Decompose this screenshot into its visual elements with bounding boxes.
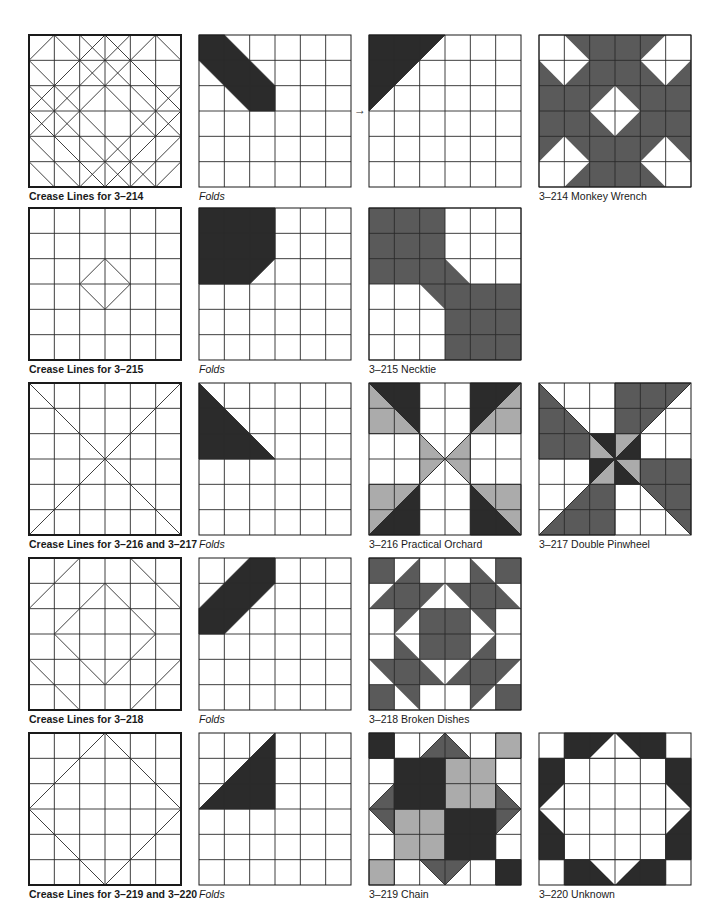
panel-chain xyxy=(368,732,522,886)
quilt-block-folds-215 xyxy=(198,207,352,361)
quilt-block-crease-215 xyxy=(28,207,182,361)
quilt-block-crease-214 xyxy=(28,34,182,188)
caption-folds-218: Folds xyxy=(199,713,225,725)
caption-crease-218: Crease Lines for 3–218 xyxy=(29,713,143,725)
quilt-block-necktie xyxy=(368,207,522,361)
panel-unknown-220 xyxy=(538,732,692,886)
panel-folds-216 xyxy=(198,382,352,536)
caption-crease-215: Crease Lines for 3–215 xyxy=(29,363,143,375)
caption-practical-orchard: 3–216 Practical Orchard xyxy=(369,538,482,550)
caption-folds-214: Folds xyxy=(199,190,225,202)
caption-folds-216: Folds xyxy=(199,538,225,550)
patch-light xyxy=(369,860,394,885)
panel-crease-214 xyxy=(28,34,182,188)
caption-folds-219: Folds xyxy=(199,888,225,900)
quilt-block-crease-218 xyxy=(28,557,182,711)
panel-necktie xyxy=(368,207,522,361)
panel-practical-orchard xyxy=(368,382,522,536)
panel-folds2-214 xyxy=(368,34,522,188)
caption-broken-dishes: 3–218 Broken Dishes xyxy=(369,713,469,725)
quilt-block-double-pinwheel xyxy=(538,382,692,536)
panel-crease-219-220 xyxy=(28,732,182,886)
quilt-block-folds-218 xyxy=(198,557,352,711)
caption-crease-216-217: Crease Lines for 3–216 and 3–217 xyxy=(29,538,197,550)
quilt-block-practical-orchard xyxy=(368,382,522,536)
patch-dark xyxy=(369,733,394,758)
panel-double-pinwheel xyxy=(538,382,692,536)
patch-light xyxy=(496,733,521,758)
panel-crease-215 xyxy=(28,207,182,361)
quilt-block-broken-dishes xyxy=(368,557,522,711)
quilt-block-folds2-214 xyxy=(368,34,522,188)
panel-broken-dishes xyxy=(368,557,522,711)
caption-necktie: 3–215 Necktie xyxy=(369,363,436,375)
caption-chain: 3–219 Chain xyxy=(369,888,429,900)
caption-folds-215: Folds xyxy=(199,363,225,375)
caption-crease-214: Crease Lines for 3–214 xyxy=(29,190,143,202)
quilt-block-folds-219 xyxy=(198,732,352,886)
panel-folds-214 xyxy=(198,34,352,188)
panel-folds-215 xyxy=(198,207,352,361)
panel-crease-218 xyxy=(28,557,182,711)
caption-crease-219-220: Crease Lines for 3–219 and 3–220 xyxy=(29,888,197,900)
quilt-block-unknown-220 xyxy=(538,732,692,886)
caption-unknown-220: 3–220 Unknown xyxy=(539,888,615,900)
patch-dark xyxy=(496,860,521,885)
caption-monkey-wrench: 3–214 Monkey Wrench xyxy=(539,190,647,202)
quilt-block-folds-216 xyxy=(198,382,352,536)
quilt-block-folds-214 xyxy=(198,34,352,188)
quilt-block-crease-219-220 xyxy=(28,732,182,886)
panel-monkey-wrench xyxy=(538,34,692,188)
panel-folds-219 xyxy=(198,732,352,886)
arrow-right-icon: → xyxy=(354,104,366,116)
caption-double-pinwheel: 3–217 Double Pinwheel xyxy=(539,538,650,550)
quilt-block-monkey-wrench xyxy=(538,34,692,188)
panel-folds-218 xyxy=(198,557,352,711)
panel-crease-216-217 xyxy=(28,382,182,536)
quilt-block-crease-216-217 xyxy=(28,382,182,536)
quilt-block-chain xyxy=(368,732,522,886)
